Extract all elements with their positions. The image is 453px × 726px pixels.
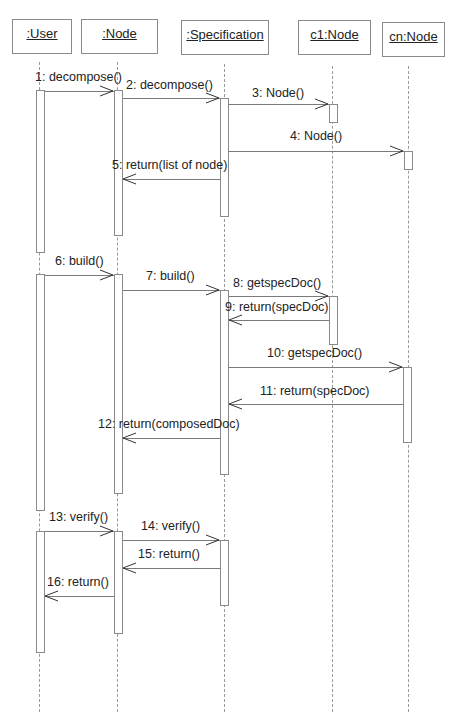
message-5-line: [123, 179, 220, 180]
activation-node-verify: [114, 531, 123, 634]
object-node-label: :Node: [102, 26, 137, 41]
open-arrowhead-right-icon: [206, 534, 220, 546]
open-arrowhead-left-icon: [123, 432, 137, 444]
message-7-label: 7: build(): [146, 269, 195, 283]
object-c1-node-label: c1:Node: [310, 27, 358, 42]
open-arrowhead-right-icon: [100, 525, 114, 537]
message-3-label: 3: Node(): [252, 86, 304, 100]
message-13-label: 13: verify(): [49, 510, 108, 524]
message-1-label: 1: decompose(): [35, 70, 122, 84]
message-5-label: 5: return(list of node): [112, 158, 227, 172]
message-10-label: 10: getspecDoc(): [267, 346, 362, 360]
open-arrowhead-left-icon: [229, 398, 243, 410]
message-11-line: [229, 404, 403, 405]
activation-spec-build: [220, 290, 229, 475]
message-3-line: [229, 104, 329, 105]
message-4-label: 4: Node(): [290, 129, 342, 143]
open-arrowhead-right-icon: [100, 85, 114, 97]
open-arrowhead-right-icon: [390, 145, 404, 157]
activation-user-verify: [36, 531, 45, 653]
object-specification: :Specification: [181, 20, 269, 55]
message-14-label: 14: verify(): [141, 519, 200, 533]
open-arrowhead-left-icon: [123, 562, 137, 574]
message-8-label: 8: getspecDoc(): [233, 276, 321, 290]
message-4-line: [229, 151, 404, 152]
message-6-label: 6: build(): [55, 254, 104, 268]
message-8-line: [229, 296, 329, 297]
activation-spec-verify: [220, 540, 229, 606]
message-2-label: 2: decompose(): [126, 78, 213, 92]
object-cn-node-label: cn:Node: [389, 29, 437, 44]
message-15-line: [123, 568, 220, 569]
message-9-line: [229, 320, 329, 321]
open-arrowhead-left-icon: [45, 590, 59, 602]
message-10-line: [229, 367, 403, 368]
open-arrowhead-right-icon: [100, 269, 114, 281]
activation-cn-getspecdoc: [403, 367, 412, 443]
activation-node-build: [114, 274, 123, 494]
open-arrowhead-left-icon: [229, 314, 243, 326]
object-c1-node: c1:Node: [298, 20, 371, 55]
object-user-label: :User: [26, 26, 57, 41]
activation-user-build: [36, 274, 45, 511]
activation-c1-create: [329, 104, 338, 123]
object-cn-node: cn:Node: [382, 22, 445, 57]
open-arrowhead-right-icon: [206, 284, 220, 296]
open-arrowhead-right-icon: [389, 361, 403, 373]
open-arrowhead-right-icon: [315, 98, 329, 110]
object-user: :User: [12, 19, 72, 54]
activation-user-decompose: [36, 90, 45, 253]
object-specification-label: :Specification: [186, 27, 263, 42]
message-11-label: 11: return(specDoc): [260, 384, 370, 398]
message-12-line: [123, 438, 220, 439]
activation-c1-getspecdoc: [329, 296, 338, 345]
message-15-label: 15: return(): [138, 547, 200, 561]
activation-cn-create: [404, 151, 413, 170]
message-12-label: 12: return(composedDoc): [98, 417, 240, 431]
open-arrowhead-left-icon: [123, 173, 137, 185]
open-arrowhead-right-icon: [206, 92, 220, 104]
message-9-label: 9: return(specDoc): [225, 300, 329, 314]
object-node: :Node: [81, 19, 158, 54]
message-16-label: 16: return(): [47, 575, 109, 589]
